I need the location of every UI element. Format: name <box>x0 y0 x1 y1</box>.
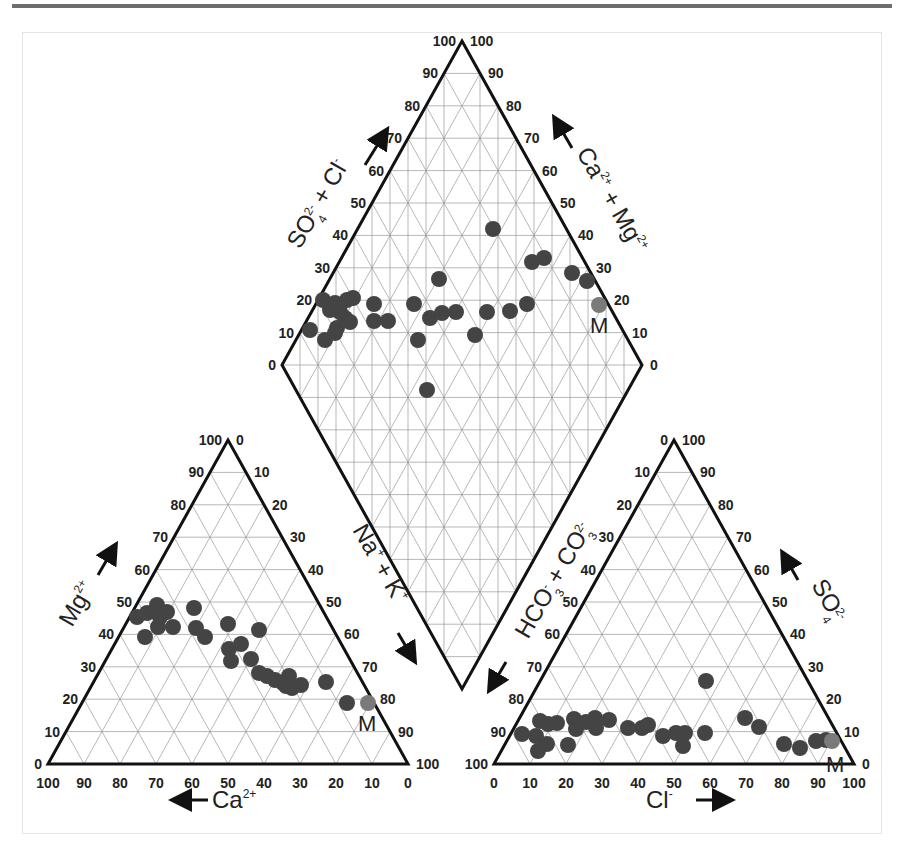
diamond-point <box>519 296 535 312</box>
cation-point <box>197 629 213 645</box>
tick-label: 80 <box>506 98 522 114</box>
diamond-point <box>485 221 501 237</box>
diamond-point <box>431 271 447 287</box>
tick-label: 50 <box>326 594 342 610</box>
tick-label: 30 <box>598 529 614 545</box>
tick-label: 40 <box>332 227 348 243</box>
tick-label: 30 <box>596 260 612 276</box>
tick-label: 30 <box>808 659 824 675</box>
diamond-point <box>366 296 382 312</box>
tick-label: 80 <box>774 775 790 791</box>
tick-label: 0 <box>660 432 668 448</box>
tick-label: 40 <box>578 227 594 243</box>
tick-label: 60 <box>542 163 558 179</box>
arrow-mg <box>98 551 112 575</box>
diamond-point <box>406 296 422 312</box>
diamond-point <box>536 250 552 266</box>
svg-text:Ca2+: Ca2+ <box>212 786 256 813</box>
tick-label: 50 <box>560 195 576 211</box>
tick-label: 90 <box>810 775 826 791</box>
tick-label: 70 <box>386 130 402 146</box>
arrow-so4 <box>786 559 798 580</box>
tick-label: 20 <box>826 691 842 707</box>
cation-point <box>165 619 181 635</box>
anion-point <box>697 725 713 741</box>
tick-label: 90 <box>490 724 506 740</box>
anion-point <box>792 740 808 756</box>
anion-point <box>776 736 792 752</box>
tick-label: 10 <box>364 775 380 791</box>
tick-label: 80 <box>404 98 420 114</box>
tick-label: 100 <box>433 33 457 49</box>
cation-point <box>318 674 334 690</box>
tick-label: 20 <box>62 691 78 707</box>
anion-point <box>601 712 617 728</box>
tick-label: 60 <box>368 163 384 179</box>
diamond-point <box>366 313 382 329</box>
cation-point <box>186 600 202 616</box>
tick-label: 90 <box>76 775 92 791</box>
cation-point <box>137 629 153 645</box>
tick-label: 20 <box>272 497 288 513</box>
tick-label: 70 <box>148 775 164 791</box>
tick-label: 30 <box>292 775 308 791</box>
diamond-point <box>479 304 495 320</box>
tick-label: 40 <box>256 775 272 791</box>
diamond-point <box>380 313 396 329</box>
tick-label: 30 <box>290 529 306 545</box>
axis-title-cl: Cl- <box>646 786 673 813</box>
tick-label: 90 <box>398 724 414 740</box>
tick-label: 40 <box>98 626 114 642</box>
svg-text:Na++K+: Na++K+ <box>348 519 415 608</box>
tick-label: 70 <box>362 659 378 675</box>
cation-point <box>223 653 239 669</box>
diamond-point <box>579 273 595 289</box>
tick-label: 50 <box>350 195 366 211</box>
tick-label: 80 <box>112 775 128 791</box>
anion-point <box>560 737 576 753</box>
m-label-left: M <box>358 711 376 736</box>
data-points <box>129 221 840 759</box>
axis-title-na-k: Na++K+ <box>348 519 415 608</box>
diamond-point-m <box>591 297 607 313</box>
tick-label: 70 <box>152 529 168 545</box>
tick-label: 100 <box>842 775 866 791</box>
diamond-point <box>448 304 464 320</box>
diamond-point <box>419 382 435 398</box>
tick-label: 0 <box>862 756 870 772</box>
tick-label: 50 <box>116 594 132 610</box>
axis-title-mg: Mg2+ <box>53 576 100 630</box>
tick-label: 90 <box>700 464 716 480</box>
tick-label: 80 <box>718 497 734 513</box>
tick-label: 100 <box>199 432 223 448</box>
anion-point <box>620 720 636 736</box>
svg-text:Cl-: Cl- <box>646 786 673 813</box>
tick-label: 100 <box>36 775 60 791</box>
tick-label: 10 <box>844 724 860 740</box>
anion-point <box>530 743 546 759</box>
arrow-ca-mg <box>558 124 572 148</box>
anion-point <box>751 719 767 735</box>
tick-label: 100 <box>682 432 706 448</box>
cation-point <box>339 695 355 711</box>
tick-label: 60 <box>544 626 560 642</box>
grid-lines <box>66 73 836 764</box>
tick-label: 70 <box>524 130 540 146</box>
tick-label: 20 <box>328 775 344 791</box>
m-label-right: M <box>826 752 844 777</box>
diamond-point <box>502 303 518 319</box>
anion-point <box>698 673 714 689</box>
diamond-point <box>302 322 318 338</box>
tick-label: 30 <box>80 659 96 675</box>
cation-point <box>233 636 249 652</box>
cation-point <box>251 622 267 638</box>
tick-label: 50 <box>772 594 788 610</box>
tick-label: 100 <box>416 756 440 772</box>
tick-label: 10 <box>632 325 648 341</box>
tick-label: 90 <box>422 65 438 81</box>
tick-label: 30 <box>594 775 610 791</box>
svg-text:SO42-: SO42- <box>801 574 852 630</box>
tick-label: 10 <box>278 325 294 341</box>
tick-label: 40 <box>630 775 646 791</box>
tick-label: 40 <box>580 562 596 578</box>
